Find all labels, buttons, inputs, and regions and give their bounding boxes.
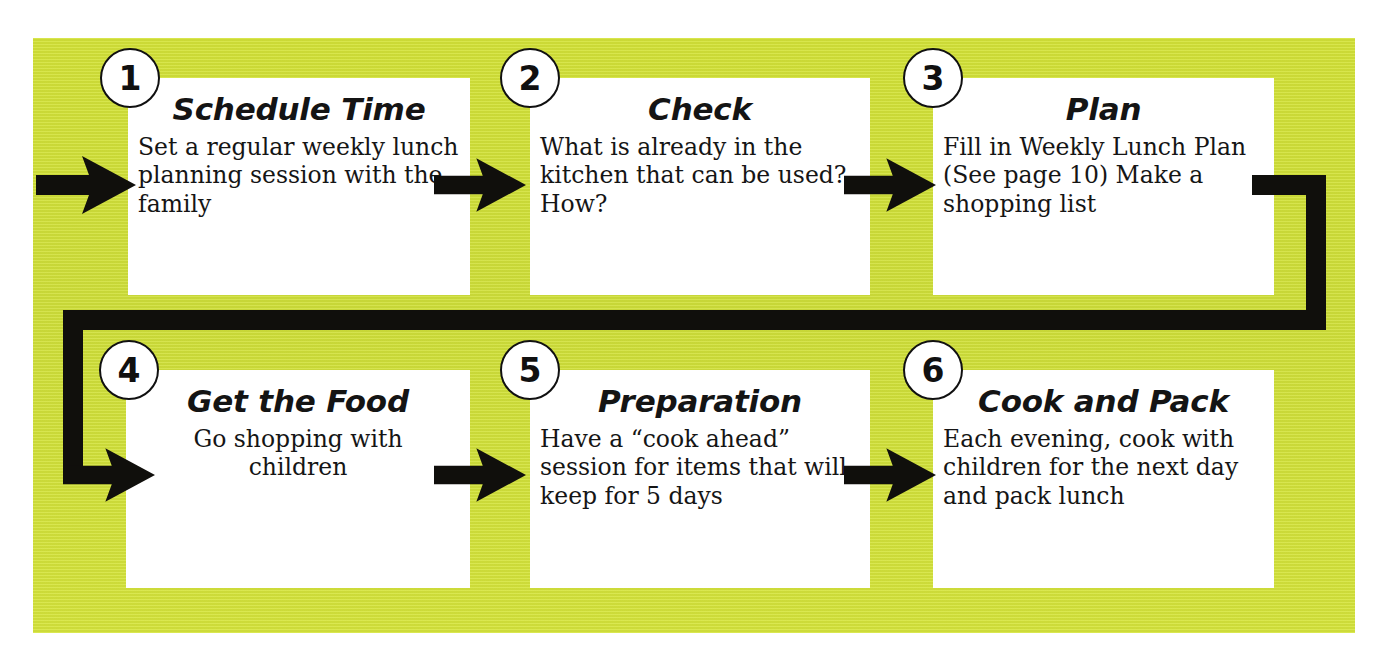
step-6-title: Cook and Pack <box>943 384 1264 419</box>
step-number-3: 3 <box>903 48 963 108</box>
step-1-body: Set a regular weekly lunch planning sess… <box>138 133 460 219</box>
arrow-step-4-to-5 <box>434 446 526 504</box>
step-1-title: Schedule Time <box>138 92 460 127</box>
arrow-into-step-4 <box>63 446 155 504</box>
step-card-3[interactable]: Plan Fill in Weekly Lunch Plan (See page… <box>933 78 1274 295</box>
step-number-6: 6 <box>903 340 963 400</box>
step-card-6[interactable]: Cook and Pack Each evening, cook with ch… <box>933 370 1274 588</box>
step-2-body: What is already in the kitchen that can … <box>540 133 860 219</box>
step-card-1[interactable]: Schedule Time Set a regular weekly lunch… <box>128 78 470 295</box>
arrow-step-1-to-2 <box>434 156 526 214</box>
arrow-step-2-to-3 <box>844 156 936 214</box>
arrow-into-step-1 <box>36 156 136 214</box>
arrow-step-5-to-6 <box>844 446 936 504</box>
step-4-title: Get the Food <box>136 384 460 419</box>
step-6-body: Each evening, cook with children for the… <box>943 425 1264 511</box>
step-2-title: Check <box>540 92 860 127</box>
flowchart-canvas: Schedule Time Set a regular weekly lunch… <box>0 0 1389 654</box>
step-5-body: Have a “cook ahead” session for items th… <box>540 425 860 511</box>
step-number-2: 2 <box>500 48 560 108</box>
step-4-body: Go shopping with children <box>136 425 460 482</box>
step-number-5: 5 <box>500 340 560 400</box>
step-5-title: Preparation <box>540 384 860 419</box>
step-card-2[interactable]: Check What is already in the kitchen tha… <box>530 78 870 295</box>
connector-bottom-bus <box>63 310 1326 330</box>
connector-right-vertical <box>1306 175 1326 330</box>
step-3-body: Fill in Weekly Lunch Plan (See page 10) … <box>943 133 1264 219</box>
step-number-4: 4 <box>99 340 159 400</box>
step-3-title: Plan <box>943 92 1264 127</box>
step-number-1: 1 <box>100 48 160 108</box>
step-card-4[interactable]: Get the Food Go shopping with children <box>126 370 470 588</box>
step-card-5[interactable]: Preparation Have a “cook ahead” session … <box>530 370 870 588</box>
